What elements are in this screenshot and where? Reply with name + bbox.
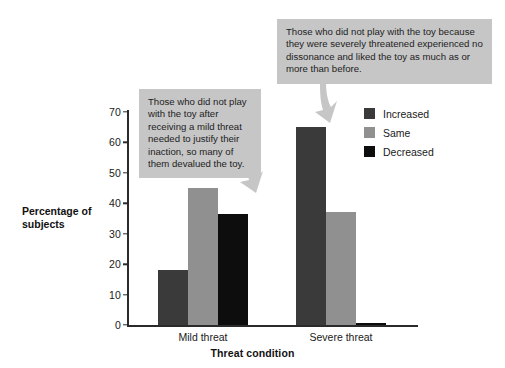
bar-decreased-mild <box>218 214 248 325</box>
annotation-callout-mild: Those who did not play with the toy afte… <box>139 89 261 178</box>
legend-item-decreased: Decreased <box>364 143 434 160</box>
legend-label-decreased: Decreased <box>383 146 434 158</box>
y-tick-mark <box>123 324 128 325</box>
y-tick-mark <box>123 142 128 143</box>
legend-item-same: Same <box>364 124 434 141</box>
x-axis-title: Threat condition <box>0 347 505 359</box>
y-tick-mark <box>123 111 128 112</box>
y-tick-30: 30 <box>109 228 128 240</box>
y-tick-mark <box>123 263 128 264</box>
legend-label-increased: Increased <box>383 108 429 120</box>
bar-chart-figure: Percentage of subjects 010203040506070 M… <box>0 0 505 368</box>
bar-increased-severe <box>296 127 326 325</box>
y-tick-mark <box>123 294 128 295</box>
y-tick-40: 40 <box>109 197 128 209</box>
legend-label-same: Same <box>383 127 410 139</box>
legend-swatch-same <box>364 127 375 138</box>
y-tick-10: 10 <box>109 289 128 301</box>
y-tick-20: 20 <box>109 258 128 270</box>
bar-same-mild <box>188 188 218 325</box>
chart-legend: Increased Same Decreased <box>364 105 434 162</box>
y-tick-mark <box>123 203 128 204</box>
y-tick-50: 50 <box>109 167 128 179</box>
x-axis-line <box>127 325 418 327</box>
annotation-callout-severe: Those who did not play with the toy beca… <box>277 19 492 84</box>
x-group-label-severe: Severe threat <box>291 331 391 343</box>
legend-swatch-increased <box>364 108 375 119</box>
y-tick-70: 70 <box>109 106 128 118</box>
y-tick-60: 60 <box>109 136 128 148</box>
x-group-label-mild: Mild threat <box>153 331 253 343</box>
y-axis-title: Percentage of subjects <box>22 205 108 231</box>
legend-item-increased: Increased <box>364 105 434 122</box>
bar-increased-mild <box>158 270 188 325</box>
y-tick-mark <box>123 233 128 234</box>
y-tick-mark <box>123 172 128 173</box>
legend-swatch-decreased <box>364 146 375 157</box>
bar-decreased-severe <box>356 323 386 325</box>
y-tick-0: 0 <box>115 319 128 331</box>
bar-same-severe <box>326 212 356 325</box>
